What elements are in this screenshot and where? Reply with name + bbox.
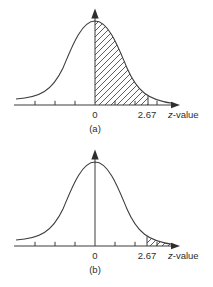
chart-a: 0 2.67 z-value (a) xyxy=(14,9,199,134)
zero-tick-label-b: 0 xyxy=(92,250,97,261)
critical-tick-label-a: 2.67 xyxy=(138,109,157,120)
critical-tick-label-b: 2.67 xyxy=(138,250,157,261)
y-axis-arrowhead-icon-b xyxy=(91,150,98,160)
tick-marks-b xyxy=(35,242,157,246)
x-axis-arrowhead-icon-b xyxy=(171,243,180,249)
chart-b: 0 2.67 z-value (b) xyxy=(14,150,199,275)
x-axis-label-b: z-value xyxy=(167,250,199,261)
x-axis-label-a: z-value xyxy=(167,109,199,120)
chart-caption-b: (b) xyxy=(89,264,101,275)
y-axis-arrowhead-icon-a xyxy=(91,9,98,19)
figure-canvas: 0 2.67 z-value (a) xyxy=(0,0,213,287)
chart-caption-a: (a) xyxy=(89,123,101,134)
normal-distribution-figure: 0 2.67 z-value (a) xyxy=(0,0,213,287)
x-axis-arrowhead-icon-a xyxy=(171,102,180,108)
zero-tick-label-a: 0 xyxy=(92,109,97,120)
